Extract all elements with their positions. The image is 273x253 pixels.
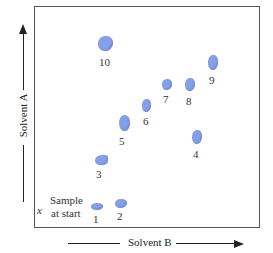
- solvent-a-label: Solvent A: [18, 91, 29, 141]
- spot-label-7: 7: [163, 94, 169, 105]
- spot-label-3: 3: [96, 169, 102, 180]
- solvent-a-axis: Solvent A: [18, 30, 28, 202]
- solvent-b-axis: Solvent B: [68, 238, 240, 248]
- solvent-b-line-right: [176, 243, 236, 244]
- spot-label-8: 8: [186, 96, 192, 107]
- spot-label-6: 6: [143, 116, 149, 127]
- spot-3: [95, 155, 108, 165]
- start-label-line1: Sample: [50, 195, 83, 206]
- solvent-a-line-top: [23, 30, 24, 90]
- spot-label-5: 5: [119, 136, 125, 147]
- arrow-right-icon: [234, 240, 244, 248]
- spot-label-1: 1: [93, 214, 99, 225]
- start-marker: x: [37, 205, 42, 216]
- spot-5: [119, 115, 130, 131]
- spot-label-4: 4: [193, 149, 199, 160]
- spot-label-10: 10: [99, 57, 110, 68]
- spot-label-9: 9: [209, 75, 215, 86]
- solvent-b-label: Solvent B: [128, 237, 172, 248]
- solvent-b-line-left: [68, 243, 120, 244]
- spot-label-2: 2: [117, 211, 123, 222]
- start-label-line2: at start: [51, 208, 81, 219]
- solvent-a-line-bottom: [23, 145, 24, 202]
